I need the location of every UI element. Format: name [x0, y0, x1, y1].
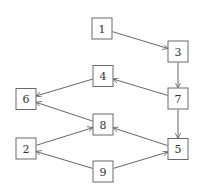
- node-7: 7: [168, 88, 188, 109]
- nodes-layer: 134768259: [16, 18, 188, 182]
- node-label: 8: [100, 119, 107, 132]
- node-4: 4: [93, 66, 113, 87]
- graph-diagram: 134768259: [0, 0, 201, 193]
- node-label: 5: [175, 143, 182, 156]
- node-label: 3: [175, 46, 182, 59]
- node-label: 4: [100, 70, 107, 83]
- node-label: 2: [23, 143, 30, 156]
- edge-9-to-2: [37, 152, 93, 169]
- edge-1-to-3: [113, 32, 168, 49]
- edge-8-to-6: [37, 102, 93, 121]
- edge-7-to-4: [114, 79, 168, 95]
- node-label: 1: [99, 23, 106, 36]
- node-8: 8: [93, 114, 113, 135]
- node-1: 1: [92, 18, 112, 39]
- node-5: 5: [168, 139, 188, 160]
- node-label: 6: [23, 93, 30, 106]
- edge-4-to-6: [37, 79, 93, 96]
- edge-2-to-8: [37, 128, 93, 145]
- edge-5-to-8: [114, 128, 168, 146]
- node-label: 9: [100, 166, 107, 179]
- edges-layer: [37, 32, 179, 169]
- node-2: 2: [16, 138, 36, 159]
- edge-9-to-5: [114, 152, 168, 168]
- node-3: 3: [168, 41, 188, 62]
- node-6: 6: [16, 89, 36, 110]
- node-9: 9: [93, 161, 113, 182]
- node-label: 7: [175, 93, 182, 106]
